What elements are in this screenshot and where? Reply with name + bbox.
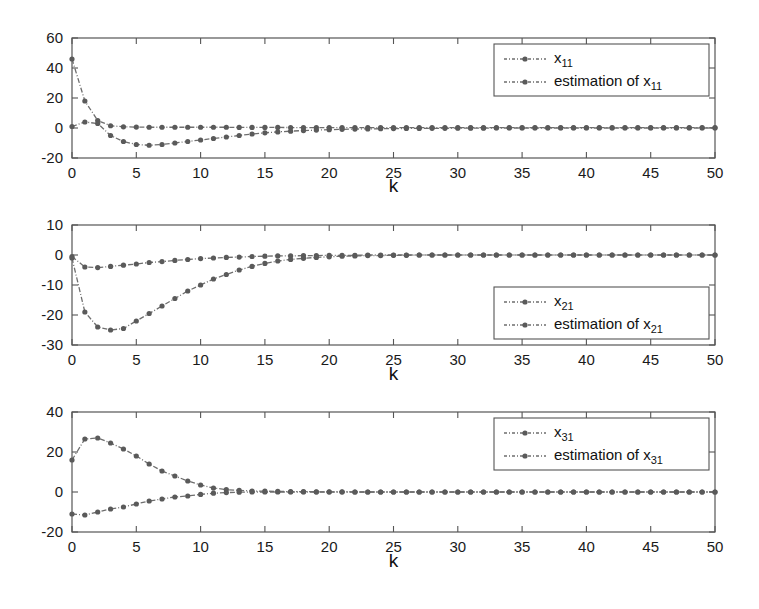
- series-marker-0: [108, 123, 113, 128]
- series-marker-1: [571, 489, 576, 494]
- series-marker-0: [185, 478, 190, 483]
- series-marker-1: [391, 489, 396, 494]
- series-marker-1: [712, 125, 717, 130]
- series-marker-1: [417, 252, 422, 257]
- series-marker-1: [700, 252, 705, 257]
- series-marker-1: [468, 252, 473, 257]
- series-marker-0: [82, 98, 87, 103]
- series-marker-0: [134, 453, 139, 458]
- series-marker-1: [481, 252, 486, 257]
- series-marker-1: [339, 489, 344, 494]
- series-marker-1: [69, 255, 74, 260]
- series-marker-0: [95, 265, 100, 270]
- series-marker-1: [481, 489, 486, 494]
- x-tick-label-45: 45: [642, 538, 659, 555]
- series-marker-1: [224, 272, 229, 277]
- chart-panel-x31: 05101520253035404550-2002040kx31estimati…: [0, 380, 759, 609]
- plot-svg-x11: 05101520253035404550-200204060kx11estima…: [0, 0, 759, 200]
- legend-sample-dot-0: [522, 56, 527, 61]
- series-marker-1: [622, 489, 627, 494]
- series-marker-0: [211, 485, 216, 490]
- x-tick-label-0: 0: [68, 538, 76, 555]
- series-marker-0: [249, 254, 254, 259]
- series-marker-0: [108, 440, 113, 445]
- legend-sample-dot-0: [522, 430, 527, 435]
- series-marker-1: [211, 276, 216, 281]
- x-tick-label-5: 5: [132, 351, 140, 368]
- series-marker-1: [610, 125, 615, 130]
- series-marker-1: [507, 125, 512, 130]
- series-marker-1: [95, 324, 100, 329]
- series-marker-1: [249, 264, 254, 269]
- series-marker-1: [365, 489, 370, 494]
- series-marker-1: [134, 501, 139, 506]
- series-marker-1: [378, 253, 383, 258]
- y-tick-label--20: -20: [41, 306, 63, 323]
- series-marker-1: [327, 489, 332, 494]
- series-marker-1: [237, 490, 242, 495]
- series-marker-1: [198, 492, 203, 497]
- series-marker-0: [185, 257, 190, 262]
- series-marker-1: [339, 254, 344, 259]
- series-marker-1: [262, 261, 267, 266]
- series-marker-1: [339, 127, 344, 132]
- series-marker-1: [288, 489, 293, 494]
- series-marker-1: [262, 489, 267, 494]
- series-marker-1: [82, 119, 87, 124]
- series-marker-1: [82, 512, 87, 517]
- x-tick-label-30: 30: [449, 538, 466, 555]
- series-marker-1: [185, 288, 190, 293]
- series-marker-1: [584, 125, 589, 130]
- x-tick-label-5: 5: [132, 164, 140, 181]
- series-marker-0: [172, 258, 177, 263]
- series-marker-1: [532, 125, 537, 130]
- series-marker-1: [237, 267, 242, 272]
- series-marker-1: [249, 489, 254, 494]
- x-tick-label-0: 0: [68, 351, 76, 368]
- series-marker-1: [327, 254, 332, 259]
- series-marker-1: [391, 126, 396, 131]
- series-marker-1: [520, 252, 525, 257]
- series-marker-1: [417, 126, 422, 131]
- series-marker-1: [507, 489, 512, 494]
- x-tick-label-20: 20: [321, 538, 338, 555]
- series-marker-0: [121, 124, 126, 129]
- series-marker-1: [507, 252, 512, 257]
- x-tick-label-45: 45: [642, 164, 659, 181]
- series-marker-1: [172, 296, 177, 301]
- series-marker-1: [314, 255, 319, 260]
- legend-label-subscript-1: 31: [651, 454, 663, 466]
- legend-label-subscript-0: 11: [562, 57, 573, 69]
- y-tick-label-20: 20: [46, 443, 63, 460]
- series-marker-1: [455, 489, 460, 494]
- series-marker-1: [700, 125, 705, 130]
- series-marker-1: [224, 134, 229, 139]
- legend-sample-dot-1: [522, 322, 527, 327]
- plot-svg-x21: 05101520253035404550-30-20-10010kx21esti…: [0, 190, 759, 390]
- series-marker-1: [442, 489, 447, 494]
- y-tick-label-40: 40: [46, 403, 63, 420]
- series-marker-1: [198, 282, 203, 287]
- x-tick-label-15: 15: [257, 351, 274, 368]
- figure-root: 05101520253035404550-200204060kx11estima…: [0, 0, 759, 609]
- series-marker-1: [108, 133, 113, 138]
- series-marker-0: [121, 263, 126, 268]
- legend-sample-dot-0: [522, 299, 527, 304]
- series-marker-1: [545, 252, 550, 257]
- series-marker-1: [275, 129, 280, 134]
- series-marker-1: [468, 126, 473, 131]
- y-tick-label-0: 0: [55, 483, 63, 500]
- x-axis-title: k: [389, 550, 399, 571]
- x-tick-label-30: 30: [449, 351, 466, 368]
- series-marker-1: [301, 128, 306, 133]
- series-marker-1: [597, 252, 602, 257]
- series-marker-1: [121, 326, 126, 331]
- legend-label-subscript-0: 21: [562, 300, 574, 312]
- series-marker-0: [147, 461, 152, 466]
- series-marker-1: [687, 489, 692, 494]
- series-marker-1: [635, 125, 640, 130]
- series-marker-1: [674, 125, 679, 130]
- series-marker-1: [494, 252, 499, 257]
- series-marker-1: [237, 133, 242, 138]
- series-marker-1: [635, 489, 640, 494]
